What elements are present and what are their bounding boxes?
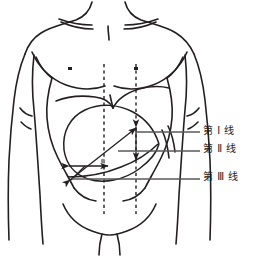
organ-reference-dot xyxy=(101,159,105,163)
sternum-notch xyxy=(108,26,109,40)
groin-crease-left xyxy=(99,234,102,255)
torso-left-flank xyxy=(47,78,74,188)
nipple-mark-right-icon xyxy=(134,67,138,70)
groin-crease-right xyxy=(117,234,120,255)
pectoral-right-outline xyxy=(114,52,187,89)
organ-outline-upper xyxy=(64,105,159,150)
torso-outline-group xyxy=(8,2,211,255)
pubic-arch-right xyxy=(110,204,156,235)
right-forearm-crease xyxy=(187,108,199,116)
midclavicular-dashed-lines-group xyxy=(104,64,136,214)
left-arm-outer-edge xyxy=(8,54,25,240)
pectoral-left-outline xyxy=(32,52,105,89)
nipple-marks-group xyxy=(68,67,138,70)
label-line-1: 第 Ⅰ 线 xyxy=(203,125,235,137)
lower-left-vertex-tick xyxy=(71,166,85,180)
organ-outline-group xyxy=(64,105,159,181)
lower-abdomen-line-right xyxy=(123,188,145,201)
left-arm-inner-edge xyxy=(33,55,44,244)
anatomical-figure: 第 Ⅰ 线 第 Ⅱ 线 第 Ⅲ 线 xyxy=(0,0,272,256)
organ-outline-hilum xyxy=(68,144,158,177)
torso-right-flank xyxy=(145,78,172,188)
label-line-2: 第 Ⅱ 线 xyxy=(203,143,237,155)
nipple-mark-left-icon xyxy=(68,67,72,70)
measurement-arrows-group xyxy=(69,127,136,180)
lower-abdomen-line xyxy=(74,188,96,201)
pubic-arch-left xyxy=(63,204,109,235)
costal-margin-right xyxy=(113,87,169,108)
right-elbow-crease xyxy=(188,122,198,129)
right-arm-inner-edge xyxy=(176,55,187,244)
left-forearm-crease xyxy=(20,108,32,116)
label-line-3: 第 Ⅲ 线 xyxy=(203,171,239,183)
organ-outline-lower xyxy=(64,144,159,181)
left-elbow-crease xyxy=(21,122,31,129)
